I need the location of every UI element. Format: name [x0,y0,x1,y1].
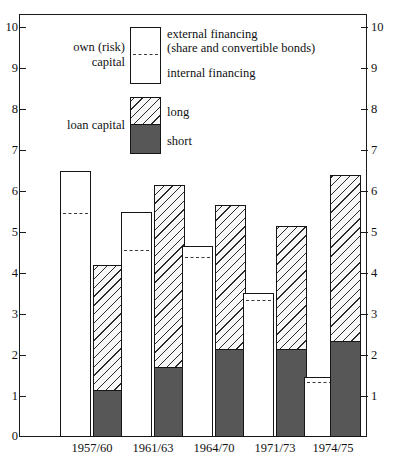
y-label-right-8: 8 [371,103,377,115]
segment-short-1971-73 [277,349,306,436]
y-tick-left-8 [19,109,26,110]
bar-loan-capital-1964-70 [215,205,246,437]
y-tick-left-6 [19,191,26,192]
legend-internal-financing-divider [133,54,158,55]
y-label-right-2: 2 [371,349,377,361]
segment-short-1961-63 [155,367,184,436]
internal-financing-line-1971-73 [246,300,271,301]
y-tick-right-3 [361,314,368,315]
legend-swatch-loan-capital [130,97,161,154]
y-label-left-5: 5 [12,226,18,238]
y-label-left-0: 0 [12,430,18,442]
y-tick-left-2 [19,355,26,356]
y-label-right-4: 4 [371,267,377,279]
bar-own-capital-1957-60 [60,171,91,437]
segment-short-1974-75 [331,341,360,436]
legend-label-internal-financing: internal financing [167,66,256,81]
legend-swatch-own-capital [130,27,161,84]
legend-segment-short [131,124,160,153]
y-label-right-10: 10 [371,21,384,33]
legend-label-own-capital-line2: capital [30,55,125,70]
x-label-1957-60: 1957/60 [57,441,127,456]
y-tick-left-3 [19,314,26,315]
x-label-1964-70: 1964/70 [179,441,249,456]
y-tick-right-4 [361,273,368,274]
segment-long-1961-63 [155,186,184,368]
x-label-1974-75: 1974/75 [298,441,368,456]
x-label-1961-63: 1961/63 [118,441,188,456]
legend-label-external-financing-line1: external financing [167,27,258,42]
y-label-left-2: 2 [12,349,18,361]
y-tick-right-8 [361,109,368,110]
y-label-right-3: 3 [371,308,377,320]
bar-loan-capital-1974-75 [330,175,361,437]
y-label-left-6: 6 [12,185,18,197]
internal-financing-line-1964-70 [185,257,210,258]
segment-short-1957-60 [94,390,123,436]
y-tick-right-5 [361,232,368,233]
segment-short-1964-70 [216,349,245,436]
legend-label-short: short [167,134,192,149]
y-label-right-9: 9 [371,62,377,74]
y-tick-right-1 [361,396,368,397]
y-label-left-8: 8 [12,103,18,115]
bar-own-capital-1961-63 [121,212,152,437]
y-tick-right-9 [361,68,368,69]
y-label-left-1: 1 [12,390,18,402]
segment-long-1974-75 [331,176,360,342]
y-tick-left-5 [19,232,26,233]
y-label-right-7: 7 [371,144,377,156]
internal-financing-line-1957-60 [63,213,88,214]
legend-label-external-financing-line2: (share and convertible bonds) [167,41,315,56]
y-label-left-7: 7 [12,144,18,156]
legend-label-long: long [167,105,189,120]
bar-own-capital-1971-73 [243,293,274,437]
chart-figure: 10 9 8 7 6 5 4 3 2 1 0 10 9 8 7 6 5 4 3 … [0,0,395,472]
y-tick-right-7 [361,150,368,151]
segment-long-1957-60 [94,266,123,391]
y-tick-right-6 [361,191,368,192]
y-label-left-9: 9 [12,62,18,74]
legend-label-own-capital-line1: own (risk) [30,40,125,55]
y-label-left-3: 3 [12,308,18,320]
internal-financing-line-1961-63 [124,250,149,251]
y-label-right-6: 6 [371,185,377,197]
y-tick-right-10 [361,27,368,28]
internal-financing-line-1974-75 [307,382,332,383]
y-label-right-1: 1 [371,390,377,402]
bar-loan-capital-1957-60 [93,265,124,437]
y-tick-left-4 [19,273,26,274]
y-tick-left-1 [19,396,26,397]
y-tick-left-10 [19,27,26,28]
y-label-right-5: 5 [371,226,377,238]
bar-own-capital-1964-70 [182,246,213,437]
y-tick-right-2 [361,355,368,356]
segment-long-1964-70 [216,206,245,350]
legend-segment-long [131,98,160,125]
y-tick-left-7 [19,150,26,151]
y-label-left-4: 4 [12,267,18,279]
bar-loan-capital-1961-63 [154,185,185,437]
y-label-left-10: 10 [6,21,19,33]
bar-loan-capital-1971-73 [276,226,307,437]
y-tick-left-9 [19,68,26,69]
segment-long-1971-73 [277,227,306,350]
legend-label-loan-capital: loan capital [40,118,125,133]
